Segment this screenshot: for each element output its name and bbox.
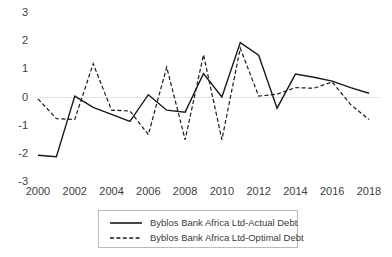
x-axis-tick-label: 2004 [95,186,129,197]
x-axis-tick-label: 2008 [168,186,202,197]
chart-legend: Byblos Bank Africa Ltd-Actual DebtByblos… [98,210,298,248]
y-axis-tick-label: 2 [4,35,28,46]
y-axis-tick-label: 0 [4,92,28,103]
y-axis-tick-label: -1 [4,120,28,131]
legend-item[interactable]: Byblos Bank Africa Ltd-Actual Debt [99,215,297,230]
series-line-1 [38,43,369,157]
x-axis-tick-label: 2006 [131,186,165,197]
legend-item-label: Byblos Bank Africa Ltd-Actual Debt [150,218,297,228]
y-axis-tick-label: 1 [4,63,28,74]
legend-item-label: Byblos Bank Africa Ltd-Optimal Debt [150,233,304,243]
series-line-2 [38,48,369,140]
y-axis-tick-label: 3 [4,7,28,18]
x-axis-tick-label: 2010 [205,186,239,197]
solid-line-icon [109,218,143,228]
x-axis-tick-label: 2014 [278,186,312,197]
dashed-line-icon [109,233,143,243]
x-axis-tick-label: 2000 [21,186,55,197]
x-axis-tick-label: 2018 [352,186,386,197]
legend-item[interactable]: Byblos Bank Africa Ltd-Optimal Debt [99,230,297,245]
x-axis-tick-label: 2012 [242,186,276,197]
x-axis-tick-label: 2016 [315,186,349,197]
y-axis-tick-label: -2 [4,148,28,159]
x-axis-tick-label: 2002 [58,186,92,197]
line-chart: 3210-1-2-3 20002002200420062008201020122… [0,0,392,257]
